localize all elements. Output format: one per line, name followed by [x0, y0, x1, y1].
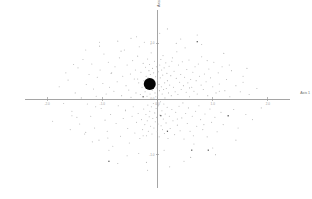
data-point	[188, 107, 189, 108]
data-point	[165, 62, 166, 63]
data-point	[180, 130, 181, 131]
scatter-plot-figure: -2.0-1.00.01.02.0 -1.00.01.0 Axis 1 Axis…	[0, 0, 312, 199]
data-point	[252, 119, 253, 120]
data-point	[153, 103, 154, 104]
data-point	[189, 87, 190, 88]
data-point	[136, 36, 137, 37]
data-point	[166, 73, 167, 74]
data-point	[160, 77, 161, 78]
data-point	[198, 105, 199, 106]
data-point	[249, 94, 250, 95]
data-point	[99, 42, 100, 43]
data-point	[147, 120, 148, 121]
data-point	[203, 124, 204, 125]
data-point	[146, 76, 147, 77]
data-point	[92, 141, 93, 142]
data-point	[111, 73, 112, 74]
data-point	[73, 64, 74, 65]
data-point	[191, 150, 192, 151]
data-point	[246, 68, 247, 69]
data-point	[99, 46, 100, 47]
data-point	[188, 60, 189, 61]
data-point	[162, 129, 163, 130]
data-point	[185, 47, 186, 48]
data-point	[171, 61, 172, 62]
data-point	[142, 129, 143, 130]
data-point	[169, 85, 170, 86]
data-point	[196, 126, 197, 127]
data-point	[150, 43, 151, 44]
data-point	[233, 109, 234, 110]
data-point	[63, 103, 64, 104]
data-point	[143, 108, 144, 109]
data-point	[219, 83, 220, 84]
data-point	[163, 103, 164, 104]
data-point	[176, 43, 177, 44]
data-point	[207, 60, 208, 61]
data-point	[130, 97, 131, 98]
data-point	[149, 93, 150, 94]
data-point	[163, 118, 164, 119]
data-point	[180, 38, 181, 39]
data-point	[148, 131, 149, 132]
data-point	[183, 85, 184, 86]
data-point	[161, 86, 162, 87]
data-point	[178, 106, 179, 107]
data-point	[161, 110, 162, 111]
data-point	[112, 146, 113, 147]
data-point	[168, 92, 169, 93]
data-point	[190, 157, 191, 158]
data-point	[235, 85, 236, 86]
data-point	[85, 50, 86, 51]
data-point	[132, 60, 133, 61]
scatter-point-highlight	[144, 78, 156, 90]
data-point	[153, 127, 154, 128]
data-point	[157, 80, 158, 81]
data-point	[224, 90, 225, 91]
data-point	[210, 77, 211, 78]
data-point	[91, 63, 92, 64]
y-tick-label: -1.0	[149, 153, 155, 157]
data-point	[157, 95, 158, 96]
data-point	[129, 142, 130, 143]
data-point	[102, 83, 103, 84]
data-point	[201, 44, 202, 45]
data-point	[180, 74, 181, 75]
data-point	[243, 76, 244, 77]
data-point	[154, 61, 155, 62]
data-point	[93, 88, 94, 89]
data-point	[175, 112, 176, 113]
data-point	[193, 91, 194, 92]
data-point	[128, 90, 129, 91]
data-point	[158, 71, 159, 72]
data-point	[176, 78, 177, 79]
y-axis-title: Axis 2	[157, 0, 161, 7]
data-point	[138, 113, 139, 114]
data-point	[140, 94, 141, 95]
data-point	[164, 97, 165, 98]
data-point	[189, 96, 190, 97]
data-point	[172, 57, 173, 58]
data-point	[147, 58, 148, 59]
data-point	[176, 51, 177, 52]
data-point	[167, 107, 168, 108]
data-point	[65, 72, 66, 73]
data-point	[125, 110, 126, 111]
data-point	[167, 28, 168, 29]
data-point	[79, 123, 80, 124]
data-point	[139, 46, 140, 47]
data-point	[193, 144, 194, 145]
data-point	[121, 95, 122, 96]
data-point	[127, 65, 128, 66]
data-point	[167, 131, 168, 132]
data-point	[208, 68, 209, 69]
data-point	[159, 33, 160, 34]
data-point	[144, 42, 145, 43]
data-point	[215, 154, 216, 155]
data-point	[121, 51, 122, 52]
data-point	[84, 133, 85, 134]
data-point	[211, 122, 212, 123]
data-point	[184, 77, 185, 78]
data-point	[135, 70, 136, 71]
data-point	[169, 66, 170, 67]
